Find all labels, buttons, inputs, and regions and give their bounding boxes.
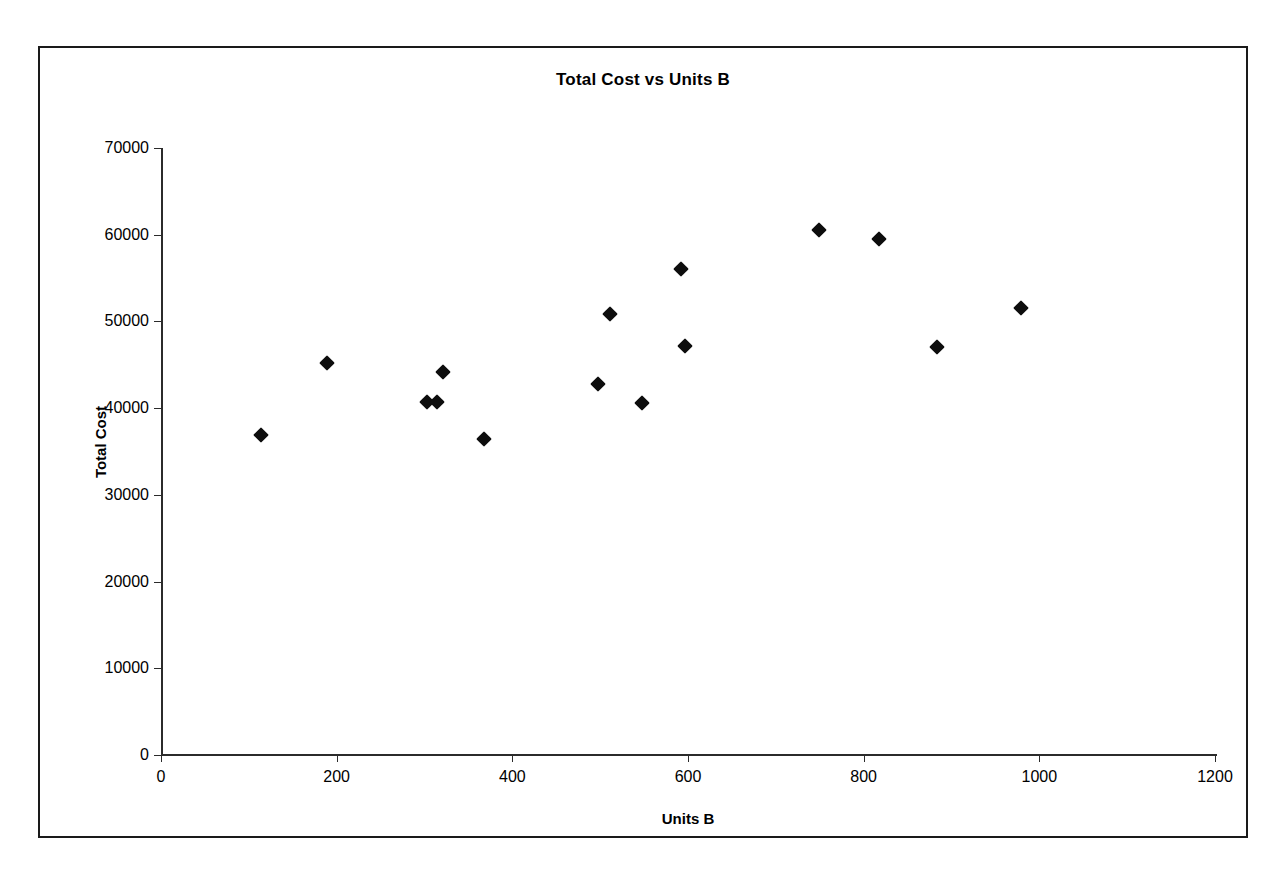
x-tick-label: 400: [499, 768, 526, 786]
y-tick-40000: [154, 408, 161, 409]
x-tick-800: [864, 754, 865, 762]
chart-title: Total Cost vs Units B: [40, 70, 1246, 90]
x-tick-label: 1200: [1197, 768, 1233, 786]
x-tick-label: 200: [323, 768, 350, 786]
y-tick-10000: [154, 668, 161, 669]
y-tick-50000: [154, 321, 161, 322]
chart-screenshot: Total Cost vs Units B Total Cost Units B…: [0, 0, 1283, 870]
x-tick-400: [512, 754, 513, 762]
y-tick-label: 20000: [105, 573, 150, 591]
y-tick-30000: [154, 495, 161, 496]
y-tick-label: 70000: [105, 139, 150, 157]
y-axis-line: [161, 148, 163, 756]
data-point: [602, 306, 618, 322]
data-point: [635, 395, 651, 411]
y-tick-label: 50000: [105, 312, 150, 330]
plot-area: 010000200003000040000500006000070000 020…: [161, 148, 1215, 755]
y-tick-0: [154, 755, 161, 756]
y-tick-label: 30000: [105, 486, 150, 504]
x-axis-line: [161, 754, 1217, 756]
x-tick-label: 0: [157, 768, 166, 786]
y-tick-70000: [154, 148, 161, 149]
data-point: [673, 261, 689, 277]
data-point: [871, 231, 887, 247]
y-tick-label: 60000: [105, 226, 150, 244]
data-point: [811, 222, 827, 238]
y-tick-label: 10000: [105, 659, 150, 677]
x-tick-label: 600: [675, 768, 702, 786]
y-tick-label: 0: [140, 746, 149, 764]
x-tick-label: 1000: [1022, 768, 1058, 786]
data-point: [1013, 301, 1029, 317]
y-tick-20000: [154, 582, 161, 583]
data-point: [930, 340, 946, 356]
x-tick-label: 800: [850, 768, 877, 786]
x-tick-0: [161, 754, 162, 762]
x-tick-1200: [1215, 754, 1216, 762]
y-tick-label: 40000: [105, 399, 150, 417]
y-tick-60000: [154, 235, 161, 236]
x-tick-1000: [1039, 754, 1040, 762]
data-point: [253, 427, 269, 443]
x-tick-600: [688, 754, 689, 762]
data-point: [476, 432, 492, 448]
data-point: [435, 364, 451, 380]
data-point: [678, 338, 694, 354]
data-point: [429, 394, 445, 410]
data-point: [590, 376, 606, 392]
x-tick-200: [337, 754, 338, 762]
chart-frame: Total Cost vs Units B Total Cost Units B…: [38, 46, 1248, 838]
x-axis-title: Units B: [161, 810, 1215, 827]
data-point: [319, 355, 335, 371]
